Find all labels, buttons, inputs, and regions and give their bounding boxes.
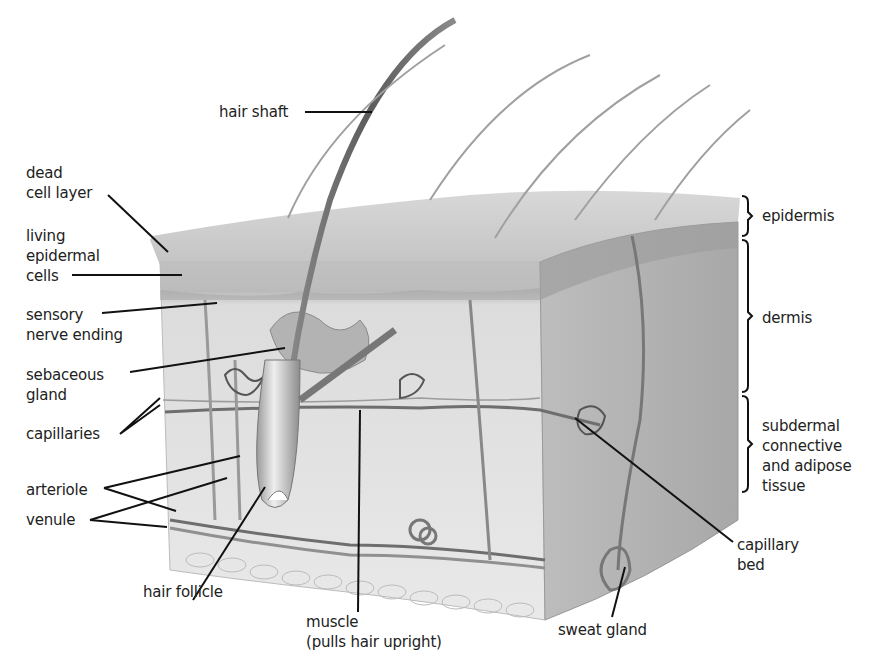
label-subdermal-tissue: subdermal connective and adipose tissue <box>762 416 851 496</box>
label-hair-follicle: hair follicle <box>143 582 223 602</box>
label-sensory-nerve-ending: sensory nerve ending <box>26 305 123 345</box>
label-living-epidermal-cells: living epidermal cells <box>26 226 100 286</box>
layer-braces <box>742 196 752 492</box>
label-capillary-bed: capillary bed <box>737 535 799 575</box>
label-arteriole: arteriole <box>26 480 88 500</box>
label-dead-cell-layer: dead cell layer <box>26 163 92 203</box>
label-capillaries: capillaries <box>26 424 100 444</box>
label-sweat-gland: sweat gland <box>558 620 647 640</box>
label-epidermis: epidermis <box>762 206 834 226</box>
front-face <box>160 262 545 620</box>
label-muscle: muscle (pulls hair upright) <box>306 612 442 652</box>
label-hair-shaft: hair shaft <box>219 102 288 122</box>
label-venule: venule <box>26 510 75 530</box>
label-dermis: dermis <box>762 308 812 328</box>
label-sebaceous-gland: sebaceous gland <box>26 365 104 405</box>
